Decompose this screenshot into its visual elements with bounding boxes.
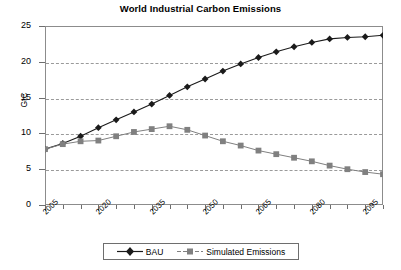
data-point-marker [184, 83, 191, 90]
data-point-marker [273, 48, 280, 55]
data-point-marker [345, 166, 351, 172]
data-point-marker [256, 148, 262, 154]
legend-marker-square-icon [177, 246, 203, 257]
data-point-marker [362, 169, 368, 175]
legend-label-bau: BAU [146, 247, 163, 257]
data-point-marker [166, 92, 173, 99]
data-point-marker [291, 155, 297, 161]
data-point-marker [202, 76, 209, 83]
chart-title: World Industrial Carbon Emissions [0, 3, 401, 14]
data-point-marker [149, 126, 155, 132]
y-axis-tick-label: 15 [5, 93, 31, 102]
y-axis-tick [39, 62, 45, 63]
legend-item-simulated-emissions[interactable]: Simulated Emissions [177, 246, 285, 257]
data-point-marker [362, 33, 369, 40]
x-axis-tick [116, 205, 117, 209]
x-axis-tick [383, 205, 384, 209]
data-point-marker [113, 133, 119, 139]
data-point-marker [184, 127, 190, 133]
series-layer [45, 26, 383, 205]
data-point-marker [45, 146, 48, 152]
x-axis-tick [81, 205, 82, 209]
y-axis-tick [39, 133, 45, 134]
data-point-marker [380, 171, 383, 177]
y-axis-tick [39, 26, 45, 27]
x-axis-tick [241, 205, 242, 209]
legend-item-bau[interactable]: BAU [117, 246, 163, 257]
chart-container: World Industrial Carbon Emissions GtC BA… [0, 0, 401, 270]
x-axis-tick [187, 205, 188, 209]
data-point-marker [255, 54, 262, 61]
y-axis-tick [39, 98, 45, 99]
data-point-marker [95, 124, 102, 131]
y-axis-tick-label: 5 [5, 164, 31, 173]
x-axis-tick [223, 205, 224, 209]
y-axis-tick-label: 0 [5, 200, 31, 209]
data-point-marker [219, 68, 226, 75]
x-axis-tick [134, 205, 135, 209]
data-point-marker [60, 141, 66, 147]
data-point-marker [167, 123, 173, 129]
data-point-marker [148, 101, 155, 108]
data-point-marker [237, 61, 244, 68]
legend-marker-diamond-icon [117, 246, 143, 257]
data-point-marker [344, 34, 351, 41]
data-point-marker [95, 138, 101, 144]
data-point-marker [202, 133, 208, 139]
y-axis-tick-label: 25 [5, 21, 31, 30]
data-point-marker [273, 151, 279, 157]
data-point-marker [238, 143, 244, 149]
y-axis-tick-label: 10 [5, 128, 31, 137]
x-axis-tick [347, 205, 348, 209]
data-point-marker [220, 138, 226, 144]
y-axis-tick-label: 20 [5, 57, 31, 66]
data-point-marker [326, 35, 333, 42]
data-point-marker [380, 32, 383, 39]
data-point-marker [131, 129, 137, 135]
data-point-marker [309, 158, 315, 164]
data-point-marker [308, 39, 315, 46]
data-point-marker [291, 43, 298, 50]
data-point-marker [113, 116, 120, 123]
chart-legend: BAU Simulated Emissions [103, 243, 299, 260]
x-axis-tick [330, 205, 331, 209]
legend-label-simulated-emissions: Simulated Emissions [206, 247, 285, 257]
series-line-bau [45, 35, 383, 149]
x-axis-tick [276, 205, 277, 209]
x-axis-tick [294, 205, 295, 209]
data-point-marker [131, 109, 138, 116]
y-axis-tick [39, 169, 45, 170]
data-point-marker [78, 138, 84, 144]
x-axis-tick [63, 205, 64, 209]
x-axis-tick [170, 205, 171, 209]
data-point-marker [327, 163, 333, 169]
x-axis-tick-label: 2005 [41, 197, 60, 216]
